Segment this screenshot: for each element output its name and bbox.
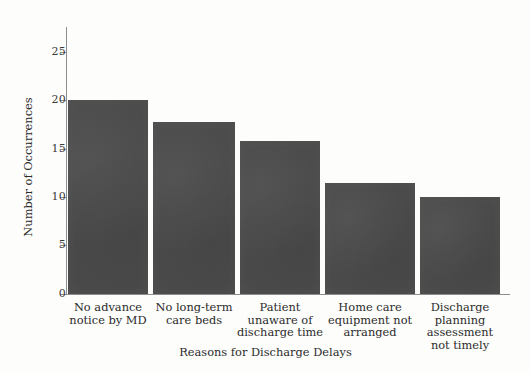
x-axis-line xyxy=(66,294,510,295)
x-category-label-3: Home care equipment not arranged xyxy=(318,301,422,339)
y-tick-25: 25 xyxy=(0,52,66,53)
x-axis-title: Reasons for Discharge Delays xyxy=(0,345,531,359)
x-category-label-3-line-0: Home care xyxy=(318,301,422,314)
bar-0 xyxy=(68,100,148,294)
x-category-label-3-line-2: arranged xyxy=(318,326,422,339)
x-category-label-2-line-2: discharge time xyxy=(230,326,330,339)
bar-4 xyxy=(420,197,500,294)
bar-1 xyxy=(153,122,235,294)
x-category-label-1: No long-term care beds xyxy=(144,301,244,326)
y-tick-label-20: 20 xyxy=(42,94,66,105)
x-category-label-0-line-1: notice by MD xyxy=(58,314,158,327)
y-axis-title: Number of Occurrences xyxy=(21,72,35,262)
x-category-label-0: No advance notice by MD xyxy=(58,301,158,326)
bar-2 xyxy=(240,141,320,294)
y-tick-label-10: 10 xyxy=(42,191,66,202)
y-tick-label-25: 25 xyxy=(42,46,66,57)
y-tick-label-0: 0 xyxy=(42,288,66,299)
x-category-label-1-line-1: care beds xyxy=(144,314,244,327)
y-axis-line xyxy=(66,27,67,295)
x-category-label-2-line-0: Patient xyxy=(230,301,330,314)
y-tick-0: 0 xyxy=(0,294,66,295)
x-category-label-1-line-0: No long-term xyxy=(144,301,244,314)
x-category-label-2: Patient unaware of discharge time xyxy=(230,301,330,339)
y-tick-label-5: 5 xyxy=(42,239,66,250)
x-category-label-4-line-0: Discharge xyxy=(410,301,510,314)
y-tick-label-15: 15 xyxy=(42,143,66,154)
x-category-label-4: Discharge planning assessment not timely xyxy=(410,301,510,351)
chart-page: 0 5 10 15 20 25 No advance xyxy=(0,0,531,373)
bar-chart: 0 5 10 15 20 25 No advance xyxy=(0,0,531,373)
x-category-label-4-line-2: assessment xyxy=(410,326,510,339)
x-category-label-0-line-0: No advance xyxy=(58,301,158,314)
bar-3 xyxy=(325,183,415,294)
